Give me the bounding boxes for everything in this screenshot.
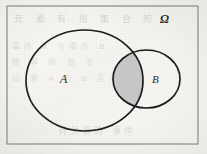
set-a-label: A [60,73,67,85]
universal-set-rectangle [7,6,198,144]
venn-diagram-svg [0,0,207,154]
figure-canvas: 元 素 有 限 集 合 的 事件 A 与事件 B 概 率 的 加 法 如 果 A… [0,0,207,154]
set-b-label: B [152,74,159,85]
universal-set-label: Ω [160,13,169,25]
